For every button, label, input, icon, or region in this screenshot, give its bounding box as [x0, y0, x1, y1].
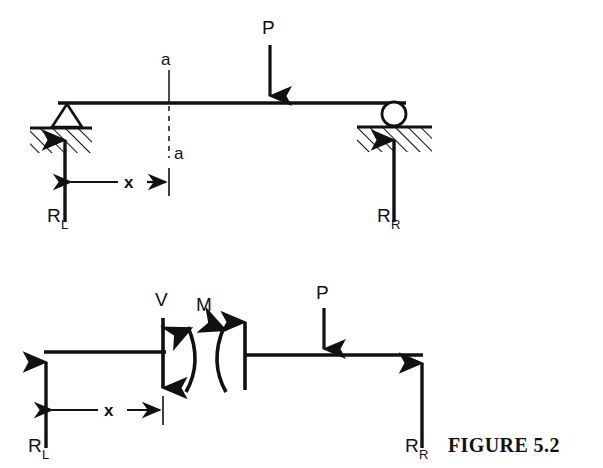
shear-label-V: V	[155, 289, 168, 310]
roller-support-circle	[382, 102, 406, 126]
reaction-label-RL-top: R	[47, 205, 61, 226]
dimension-label-x-bottom: x	[104, 401, 114, 420]
figure-caption: FIGURE 5.2	[448, 434, 560, 456]
beam-diagram-figure: P a a R L R R x	[0, 0, 603, 468]
reaction-label-RL-sub-top: L	[61, 217, 68, 232]
reaction-label-RL-sub-bottom: L	[42, 447, 49, 462]
reaction-label-RR-sub-bottom: R	[419, 447, 428, 462]
reaction-label-RR-bottom: R	[405, 435, 419, 456]
section-label-a-top: a	[161, 50, 171, 69]
pin-support-triangle	[52, 104, 82, 127]
moment-arc-M	[186, 327, 195, 392]
reaction-label-RR-sub-top: R	[391, 217, 400, 232]
reaction-label-RR-top: R	[377, 205, 391, 226]
moment-label-M: M	[196, 294, 212, 315]
bottom-free-body-diagram: V M P R L R R x	[28, 282, 428, 462]
left-ground-hatching	[30, 128, 92, 153]
dimension-label-x-top: x	[124, 173, 134, 192]
moment-arc-M-reaction	[217, 327, 226, 392]
reaction-label-RL-bottom: R	[28, 435, 42, 456]
load-label-P-bottom: P	[316, 282, 329, 303]
figure-container: P a a R L R R x	[0, 0, 603, 468]
section-label-a-bottom: a	[174, 144, 184, 163]
load-label-P-top: P	[262, 17, 275, 38]
top-beam-diagram: P a a R L R R x	[30, 17, 432, 232]
